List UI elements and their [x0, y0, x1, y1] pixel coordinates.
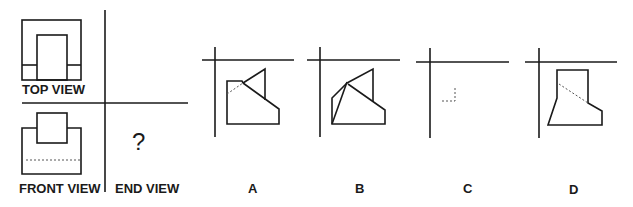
option-b-label[interactable]: B — [355, 181, 364, 196]
end-view-label: END VIEW — [115, 181, 180, 196]
option-d-drawing[interactable] — [525, 48, 617, 138]
unknown-end-view-mark: ? — [132, 128, 145, 155]
orthographic-projection-diagram: TOP VIEW FRONT VIEW END VIEW ? A B C D — [0, 0, 633, 207]
option-c-label[interactable]: C — [463, 181, 473, 196]
option-a-drawing[interactable] — [202, 47, 294, 137]
top-view-drawing — [22, 20, 81, 80]
front-view-label: FRONT VIEW — [19, 181, 101, 196]
front-view-drawing — [22, 113, 81, 174]
top-view-label: TOP VIEW — [22, 82, 86, 97]
option-b-drawing[interactable] — [307, 47, 400, 137]
option-c-drawing[interactable] — [416, 48, 509, 138]
option-a-label[interactable]: A — [248, 181, 258, 196]
option-d-label[interactable]: D — [569, 182, 578, 197]
